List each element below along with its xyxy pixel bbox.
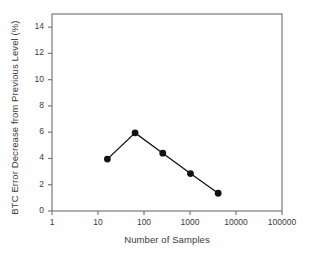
y-tick-label: 10 — [18, 74, 44, 84]
y-tick-label: 0 — [18, 205, 44, 215]
chart-figure: BTC Error Decrease from Previous Level (… — [0, 0, 309, 257]
data-point-marker — [159, 150, 166, 157]
y-tick-label: 2 — [18, 179, 44, 189]
data-point-marker — [215, 190, 222, 197]
x-axis-title: Number of Samples — [52, 234, 282, 245]
plot-frame — [52, 14, 282, 211]
x-axis-ticks — [52, 211, 282, 215]
data-point-marker — [132, 129, 139, 136]
y-tick-label: 8 — [18, 100, 44, 110]
data-point-marker — [104, 156, 111, 163]
y-tick-label: 4 — [18, 152, 44, 162]
y-tick-label: 6 — [18, 126, 44, 136]
y-tick-label: 14 — [18, 21, 44, 31]
x-tick-label: 100000 — [252, 217, 309, 227]
data-point-marker — [187, 170, 194, 177]
y-tick-label: 12 — [18, 47, 44, 57]
